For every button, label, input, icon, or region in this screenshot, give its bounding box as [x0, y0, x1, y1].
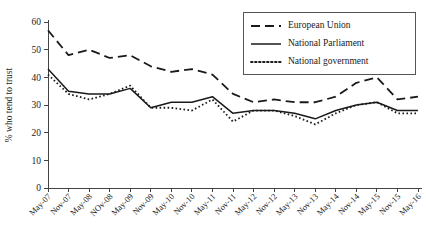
- x-tick-label: May-16: [397, 191, 423, 217]
- x-tick-label: May-15: [356, 191, 382, 217]
- legend-label-european-union: European Union: [288, 20, 351, 30]
- chart-legend: European UnionNational ParliamentNationa…: [243, 12, 415, 74]
- chart-container: % who tend to trust 0102030405060 May-07…: [0, 0, 426, 238]
- x-tick-label: May-13: [273, 191, 299, 217]
- y-axis: 0102030405060: [32, 17, 49, 193]
- x-tick-label: May-12: [232, 191, 258, 217]
- x-tick-label: NOv-08: [88, 191, 115, 218]
- x-tick-label: May-10: [150, 191, 176, 217]
- y-tick-label: 50: [32, 45, 42, 55]
- y-axis-title: % who tend to trust: [4, 67, 14, 142]
- x-tick-label: May-14: [315, 191, 342, 218]
- x-axis: May-07Nov-07May-08NOv-08May-09Nov-09May-…: [27, 188, 423, 218]
- legend-label-national-government: National government: [288, 56, 369, 66]
- y-tick-label: 60: [32, 17, 42, 27]
- y-tick-label: 30: [32, 100, 42, 110]
- y-tick-label: 10: [32, 156, 42, 166]
- x-tick-label: May-09: [109, 191, 135, 217]
- y-axis-title-label: % who tend to trust: [4, 67, 14, 142]
- x-tick-label: May-07: [27, 191, 53, 217]
- y-tick-label: 0: [36, 183, 41, 193]
- line-chart: % who tend to trust 0102030405060 May-07…: [0, 0, 426, 238]
- y-tick-label: 20: [32, 128, 42, 138]
- y-tick-label: 40: [32, 73, 42, 83]
- x-tick-label: May-11: [191, 191, 217, 217]
- legend-label-national-parliament: National Parliament: [288, 38, 365, 48]
- series-line-national-government: [48, 75, 418, 125]
